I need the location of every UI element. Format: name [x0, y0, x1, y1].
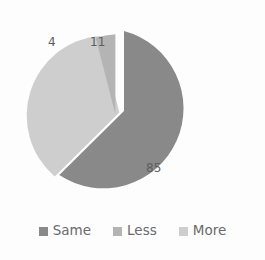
pie-chart-svg — [0, 0, 265, 212]
legend-label-less: Less — [127, 224, 157, 238]
chart-legend: Same Less More — [0, 214, 265, 248]
pie-chart-figure: 85 4 11 Same Less More — [0, 0, 265, 260]
legend-label-more: More — [193, 224, 226, 238]
legend-item-more[interactable]: More — [179, 224, 226, 238]
legend-swatch-same-icon — [39, 227, 48, 236]
pie-slice-value-same: 85 — [146, 162, 162, 174]
legend-item-less[interactable]: Less — [113, 224, 157, 238]
pie-chart-plot-area: 85 4 11 — [0, 0, 265, 212]
legend-label-same: Same — [53, 224, 91, 238]
legend-item-same[interactable]: Same — [39, 224, 91, 238]
pie-slice-value-more: 11 — [90, 36, 106, 48]
legend-swatch-more-icon — [179, 227, 188, 236]
legend-swatch-less-icon — [113, 227, 122, 236]
pie-slice-value-less: 4 — [48, 36, 56, 48]
